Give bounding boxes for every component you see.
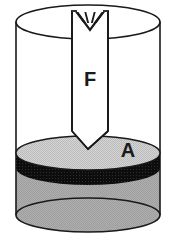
- force-label: F: [84, 68, 96, 90]
- piston-diagram-canvas: F A: [0, 0, 176, 245]
- piston-diagram-figure: F A: [0, 0, 176, 245]
- area-label: A: [121, 139, 135, 161]
- cylinder-bottom-ellipse: [16, 198, 160, 232]
